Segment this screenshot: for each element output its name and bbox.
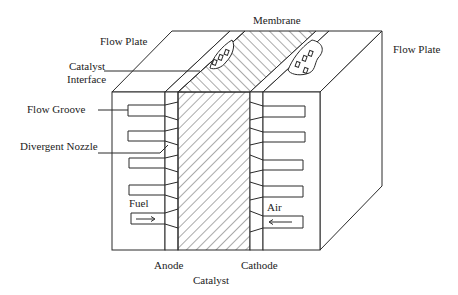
divergent-nozzle-label: Divergent Nozzle xyxy=(20,140,98,152)
flow-groove-label: Flow Groove xyxy=(27,103,85,115)
membrane-label: Membrane xyxy=(253,14,301,26)
air-label: Air xyxy=(267,201,282,213)
cathode-label: Cathode xyxy=(241,259,278,271)
flow-plate-right-label: Flow Plate xyxy=(393,43,440,55)
fuel-cell-diagram: Membrane Flow Plate Flow Plate Catalyst … xyxy=(0,0,458,295)
catalyst-label: Catalyst xyxy=(193,274,229,286)
flow-plate-left-label: Flow Plate xyxy=(100,35,147,47)
fuel-label: Fuel xyxy=(129,197,149,209)
anode-label: Anode xyxy=(154,259,183,271)
catalyst-interface-label-line1: Catalyst xyxy=(69,60,105,72)
catalyst-membrane-front xyxy=(178,92,250,250)
catalyst-interface-label-line2: Interface xyxy=(67,73,106,85)
right-flow-plate-front xyxy=(263,92,320,250)
